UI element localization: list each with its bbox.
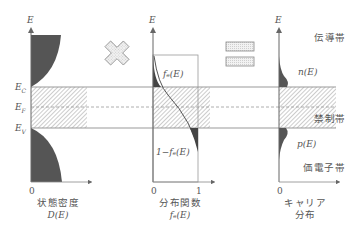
fermi-lower-label: 1−fₑ(E) bbox=[156, 147, 190, 157]
carrier-subtitle: 分布 bbox=[295, 210, 316, 220]
ef-label: EF bbox=[15, 102, 26, 116]
equals-operator-icon bbox=[226, 42, 254, 66]
dos-valence-fill bbox=[31, 128, 62, 182]
dos-axis-label: E bbox=[27, 15, 34, 25]
valence-band-label: 価電子帯 bbox=[303, 163, 345, 173]
ec-label: EC bbox=[15, 82, 26, 96]
hole-distribution bbox=[279, 128, 288, 160]
electron-label: n(E) bbox=[298, 67, 317, 77]
forbidden-band-label: 禁制帯 bbox=[314, 114, 346, 124]
dos-subtitle: D(E) bbox=[48, 210, 69, 220]
fermi-subtitle: fₑ(E) bbox=[170, 210, 190, 220]
forbidden-band-hatching bbox=[31, 87, 336, 128]
dos-origin-tick: 0 bbox=[29, 186, 35, 196]
dos-conduction-fill bbox=[31, 35, 61, 87]
fermi-title: 分布関数 bbox=[159, 198, 201, 208]
carrier-axis-label: E bbox=[275, 15, 282, 25]
fermi-tail-lower bbox=[190, 128, 198, 152]
fermi-origin-tick: 0 bbox=[151, 186, 157, 196]
fermi-axis-label: E bbox=[149, 15, 156, 25]
carrier-title: キャリア bbox=[284, 198, 326, 208]
multiply-operator-icon bbox=[99, 35, 136, 72]
fermi-upper-label: fₑ(E) bbox=[163, 69, 183, 79]
conduction-band-label: 伝導帯 bbox=[314, 33, 346, 43]
dos-title: 状態密度 bbox=[37, 198, 79, 208]
fermi-one-tick: 1 bbox=[196, 186, 202, 196]
electron-distribution bbox=[279, 56, 288, 87]
hole-label: p(E) bbox=[297, 139, 316, 149]
carrier-origin-tick: 0 bbox=[277, 186, 283, 196]
ev-label: EV bbox=[15, 123, 26, 137]
